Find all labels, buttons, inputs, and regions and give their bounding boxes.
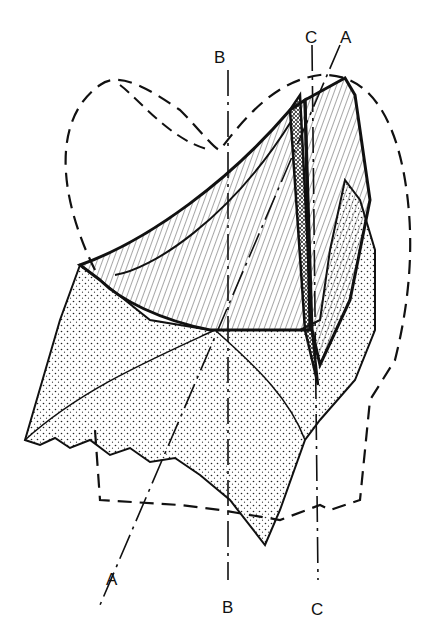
label-c-bottom: C: [311, 600, 323, 620]
label-b-top: B: [214, 48, 225, 68]
label-c-top: C: [305, 28, 317, 48]
tooth-diagram: [0, 0, 428, 643]
label-b-bottom: B: [222, 598, 233, 618]
label-a-top: A: [340, 28, 351, 48]
label-a-bottom: A: [106, 570, 117, 590]
